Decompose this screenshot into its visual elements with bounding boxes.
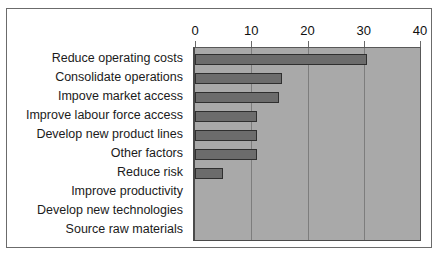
value-axis: 010203040 bbox=[193, 23, 421, 47]
horizontal-bar-chart: 010203040 Reduce operating costsConsolid… bbox=[7, 9, 433, 249]
bar-row bbox=[195, 184, 420, 203]
x-tick-label-40: 40 bbox=[413, 23, 427, 38]
bar-row bbox=[195, 51, 420, 70]
category-label: Develop new product lines bbox=[36, 125, 183, 144]
bar[interactable] bbox=[195, 111, 257, 122]
bar[interactable] bbox=[195, 149, 257, 160]
bar[interactable] bbox=[195, 92, 279, 103]
x-tick-label-20: 20 bbox=[300, 23, 314, 38]
bar-series bbox=[195, 48, 420, 240]
bar-row bbox=[195, 165, 420, 184]
bar-row bbox=[195, 146, 420, 165]
bar[interactable] bbox=[195, 168, 223, 179]
bar[interactable] bbox=[195, 130, 257, 141]
x-tick-label-30: 30 bbox=[357, 23, 371, 38]
category-label: Reduce operating costs bbox=[52, 49, 183, 68]
category-label: Other factors bbox=[111, 144, 183, 163]
plot-area bbox=[193, 47, 421, 241]
bar[interactable] bbox=[195, 54, 367, 65]
x-tick-label-10: 10 bbox=[244, 23, 258, 38]
category-label: Reduce risk bbox=[117, 163, 183, 182]
category-label: Improve productivity bbox=[71, 182, 183, 201]
bar-row bbox=[195, 108, 420, 127]
x-tick-label-0: 0 bbox=[191, 23, 198, 38]
category-label: Improve labour force access bbox=[26, 106, 183, 125]
chart-frame: 010203040 Reduce operating costsConsolid… bbox=[6, 8, 432, 248]
category-label: Source raw materials bbox=[66, 220, 183, 239]
bar-row bbox=[195, 203, 420, 222]
bar-row bbox=[195, 127, 420, 146]
category-label: Impove market access bbox=[58, 87, 183, 106]
category-label: Develop new technologies bbox=[37, 201, 183, 220]
bar-row bbox=[195, 222, 420, 241]
bar-row bbox=[195, 70, 420, 89]
bar-row bbox=[195, 89, 420, 108]
category-axis: Reduce operating costsConsolidate operat… bbox=[13, 49, 187, 241]
category-label: Consolidate operations bbox=[55, 68, 183, 87]
bar[interactable] bbox=[195, 73, 282, 84]
